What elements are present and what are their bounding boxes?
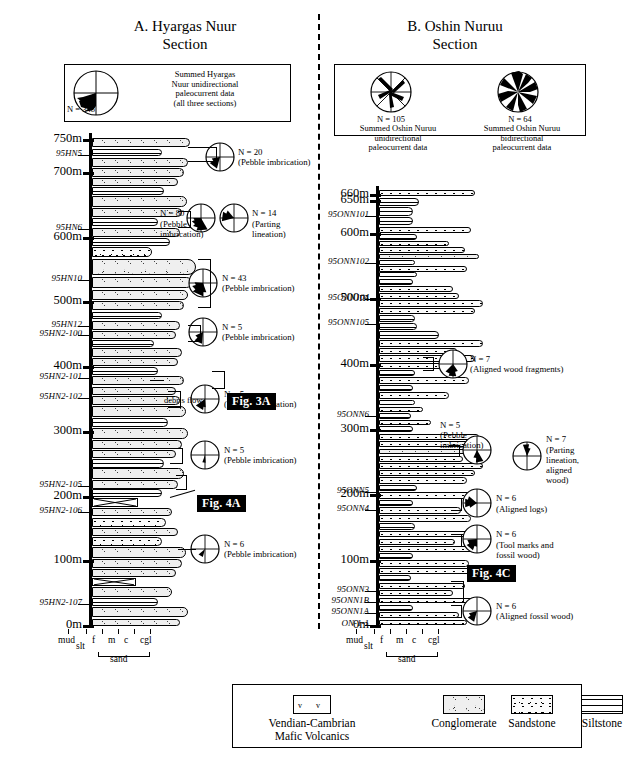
grain-label: slt xyxy=(364,641,373,651)
legend-swatch-sandstone xyxy=(511,695,553,714)
bed xyxy=(92,559,182,568)
bracket xyxy=(170,448,183,464)
depth-tick xyxy=(83,625,94,628)
legend-swatch-volcanics: v v xyxy=(293,695,331,714)
depth-tick-label: 400m xyxy=(317,356,369,371)
grain-label: f xyxy=(92,635,95,645)
bed xyxy=(92,508,172,516)
bed xyxy=(379,620,467,625)
bed xyxy=(92,489,162,497)
grain-label: cgl xyxy=(428,635,440,645)
sample-label: 95HN2-106 xyxy=(0,505,82,515)
bed xyxy=(379,340,483,347)
bed xyxy=(379,507,461,514)
annotation-leader xyxy=(178,549,196,550)
bed xyxy=(379,413,411,418)
grain-tick xyxy=(68,629,69,634)
fig-box-4a[interactable]: Fig. 4A xyxy=(197,495,246,512)
sample-leader-line xyxy=(78,155,91,156)
depth-tick xyxy=(83,560,94,563)
sample-label: 95HN2-100 xyxy=(0,328,82,338)
sample-label: 95ONN5 xyxy=(287,485,369,495)
depth-tick-label: 300m xyxy=(30,423,82,438)
left-summed-rose-box: N = 348 Summed HyargasNuur unidirectiona… xyxy=(64,64,291,122)
depth-tick-label: 300m xyxy=(317,421,369,436)
annotation: N = 6(Aligned logs) xyxy=(496,493,547,513)
bed xyxy=(379,400,415,405)
bed xyxy=(92,149,162,157)
depth-tick-label: 650m xyxy=(317,192,369,207)
bed xyxy=(92,619,180,627)
bed xyxy=(379,590,453,596)
bed xyxy=(379,315,415,322)
bed xyxy=(92,387,176,395)
legend-label: Vendian-CambrianMafic Volcanics xyxy=(245,717,379,743)
bed xyxy=(379,575,411,581)
bed xyxy=(379,217,413,225)
grain-label: m xyxy=(108,635,115,645)
sample-label: 95ONN101 xyxy=(287,209,369,219)
fig-box-3a[interactable]: Fig. 3A xyxy=(227,393,276,410)
bed xyxy=(379,190,475,197)
bed xyxy=(379,392,449,399)
bed xyxy=(379,477,467,484)
grain-tick xyxy=(118,629,119,634)
sample-leader-line xyxy=(365,602,378,603)
right-rose-1-caption: Summed Oshin Nuruubidirectionalpaleocurr… xyxy=(461,124,583,153)
bed xyxy=(92,376,184,385)
grain-label: mud xyxy=(58,635,75,645)
sample-label: ON-1-1 xyxy=(287,618,369,628)
sample-leader-line xyxy=(78,604,91,605)
sample-leader-line xyxy=(365,416,378,417)
depth-tick xyxy=(83,301,94,304)
bed xyxy=(379,553,413,559)
grain-tick xyxy=(150,629,151,634)
sample-leader-line xyxy=(365,492,378,493)
sample-label: 95HN5 xyxy=(0,148,82,158)
bed xyxy=(92,537,162,546)
annotation: N = 6(Pebble imbrication) xyxy=(224,539,297,559)
bed xyxy=(379,198,419,206)
bed xyxy=(379,254,479,259)
bracket-fig4a xyxy=(176,475,187,490)
sample-leader-line xyxy=(365,510,378,511)
bed xyxy=(92,528,178,536)
annotation: N = 43(Pebble imbrication) xyxy=(222,273,295,293)
bed xyxy=(379,227,471,234)
bed xyxy=(379,266,467,272)
sample-label: 95ONN3 xyxy=(287,584,369,594)
fig-box-4c[interactable]: Fig. 4C xyxy=(467,565,516,582)
annotation: N = 7(Aligned wood fragments) xyxy=(470,354,563,374)
sample-leader-line xyxy=(78,335,91,336)
bed xyxy=(92,187,164,195)
bed xyxy=(92,480,178,489)
depth-tick xyxy=(370,194,381,197)
rose-diagram xyxy=(462,596,492,626)
bracket xyxy=(198,259,211,309)
sample-leader-line xyxy=(365,613,378,614)
left-section-title: A. Hyargas NuurSection xyxy=(70,18,300,53)
bed xyxy=(379,515,471,522)
sample-label: 95ONN1B xyxy=(287,595,369,605)
grain-label: mud xyxy=(346,635,363,645)
grain-tick xyxy=(134,629,135,634)
grain-label: slt xyxy=(76,641,85,651)
bed xyxy=(92,312,162,320)
sample-leader-line xyxy=(365,591,378,592)
bed xyxy=(379,420,431,425)
bed xyxy=(379,247,465,252)
depth-tick xyxy=(83,366,94,369)
depth-tick xyxy=(83,172,94,175)
sample-leader-line xyxy=(78,486,91,487)
depth-tick xyxy=(370,200,381,203)
bed xyxy=(379,323,417,330)
grain-tick xyxy=(422,629,423,634)
depth-tick-label: 700m xyxy=(30,164,82,179)
bed xyxy=(92,301,184,310)
bed xyxy=(92,468,184,478)
grain-label: c xyxy=(124,635,128,645)
depth-tick-label: 0m xyxy=(30,617,82,632)
right-summed-rose-box: N = 105 Summed Oshin Nuruuunidirectional… xyxy=(334,64,586,136)
sample-label: 95ONN104 xyxy=(287,292,369,302)
rose-diagram-oshin-unidirectional xyxy=(368,69,414,115)
